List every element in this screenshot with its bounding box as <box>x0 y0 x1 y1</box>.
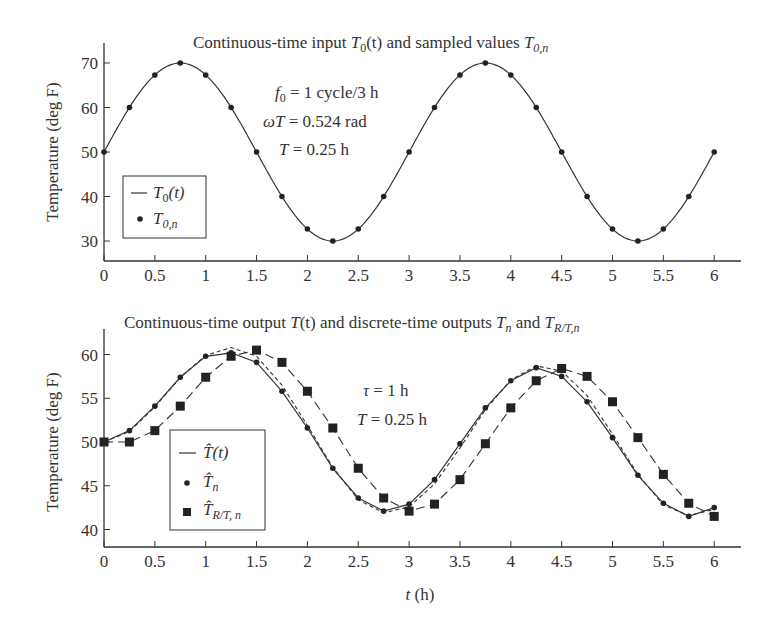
tn-dot <box>533 365 539 371</box>
tn-dot <box>127 428 133 434</box>
tn-dot <box>686 514 692 520</box>
sample-dot <box>483 60 489 66</box>
x-tick-label: 2.5 <box>348 552 369 571</box>
svg-text:T = 0.25 h: T = 0.25 h <box>357 410 428 429</box>
x-tick-label: 2 <box>303 552 312 571</box>
trt-square <box>277 358 286 367</box>
trt-square <box>405 507 414 516</box>
sample-dot <box>101 149 107 155</box>
x-tick-label: 1 <box>201 552 210 571</box>
bottom-y-axis-label: Temperature (deg F) <box>43 372 62 511</box>
y-tick-label: 40 <box>81 521 98 540</box>
x-tick-label: 5 <box>608 266 617 285</box>
sample-dot <box>127 105 133 111</box>
sample-dot <box>711 149 717 155</box>
x-tick-label: 1 <box>201 266 210 285</box>
trt-square <box>303 387 312 396</box>
sample-dot <box>559 149 565 155</box>
trt-square <box>252 346 261 355</box>
x-tick-label: 0 <box>100 266 109 285</box>
y-tick-label: 60 <box>81 346 98 365</box>
sample-dot <box>432 105 438 111</box>
y-tick-label: 60 <box>81 99 98 118</box>
sample-dot <box>305 226 311 232</box>
sample-dot <box>254 149 260 155</box>
y-tick-label: 50 <box>81 143 98 162</box>
svg-text:T = 0.25 h: T = 0.25 h <box>279 140 350 159</box>
tn-dot <box>406 501 412 507</box>
trt-square <box>532 376 541 385</box>
sample-dot <box>228 105 234 111</box>
tn-dot <box>483 405 489 411</box>
tn-dot <box>457 441 463 447</box>
x-tick-label: 3 <box>405 552 414 571</box>
trt-square <box>506 403 515 412</box>
svg-text:ωT = 0.524 rad: ωT = 0.524 rad <box>263 112 367 131</box>
sample-dot <box>152 72 158 78</box>
tn-dot <box>584 399 590 405</box>
tn-dot <box>661 500 667 506</box>
x-tick-label: 0.5 <box>144 552 165 571</box>
legend-square-icon <box>183 508 191 516</box>
sample-dot <box>381 194 387 200</box>
tn-dot <box>305 425 311 431</box>
legend-dot-icon <box>137 216 143 222</box>
trt-square <box>455 475 464 484</box>
svg-text:T̂(t): T̂(t) <box>203 443 229 462</box>
y-tick-label: 70 <box>81 54 98 73</box>
top-plot-title: Continuous-time input T0(t) and sampled … <box>193 33 548 55</box>
x-tick-label: 4.5 <box>551 266 572 285</box>
trt-square <box>379 494 388 503</box>
sample-dot <box>584 194 590 200</box>
bottom-x-axis-label: t (h) <box>406 585 435 604</box>
trt-square <box>201 373 210 382</box>
tn-dot <box>254 360 260 366</box>
sample-dot <box>330 238 336 244</box>
trt-square <box>557 364 566 373</box>
sample-dot <box>203 72 209 78</box>
bottom-annotation: τ = 1 h T = 0.25 h <box>357 381 428 429</box>
top-axes: 00.511.522.533.544.555.563040506070 <box>81 43 741 285</box>
x-tick-label: 3.5 <box>449 552 470 571</box>
trt-square <box>100 438 109 447</box>
x-tick-label: 6 <box>710 552 719 571</box>
tn-dot <box>203 353 209 359</box>
trt-square <box>354 464 363 473</box>
y-tick-label: 50 <box>81 433 98 452</box>
y-tick-label: 30 <box>81 232 98 251</box>
top-y-axis-label: Temperature (deg F) <box>43 82 62 221</box>
trt-square <box>710 512 719 521</box>
bottom-plot: Continuous-time output T(t) and discrete… <box>43 313 741 604</box>
tn-dot <box>177 374 183 380</box>
y-tick-label: 55 <box>81 389 98 408</box>
svg-text:f0 = 1 cycle/3 h: f0 = 1 cycle/3 h <box>275 83 379 105</box>
sample-dot <box>533 105 539 111</box>
tn-dot <box>279 388 285 394</box>
trt-square <box>659 470 668 479</box>
trt-square <box>227 352 236 361</box>
sample-dot <box>355 226 361 232</box>
trt-square <box>608 397 617 406</box>
tn-dot <box>635 472 641 478</box>
sample-dot <box>177 60 183 66</box>
sample-dot <box>406 149 412 155</box>
x-tick-label: 5 <box>608 552 617 571</box>
top-plot: Continuous-time input T0(t) and sampled … <box>43 33 741 285</box>
sample-dot <box>279 194 285 200</box>
sample-dot <box>508 72 514 78</box>
legend-dot-icon <box>184 480 190 486</box>
x-tick-label: 0.5 <box>144 266 165 285</box>
tn-dot <box>508 378 514 384</box>
bottom-legend: T̂(t) T̂n T̂R/T, n <box>170 430 265 530</box>
x-tick-label: 4 <box>507 266 516 285</box>
tn-dot <box>610 435 616 441</box>
y-tick-label: 45 <box>81 477 98 496</box>
x-tick-label: 1.5 <box>246 266 267 285</box>
trt-square <box>328 424 337 433</box>
trt-square <box>481 439 490 448</box>
tn-dot <box>152 403 158 409</box>
svg-text:T0(t): T0(t) <box>153 183 185 205</box>
sample-dot <box>457 72 463 78</box>
tn-dot <box>355 495 361 501</box>
x-tick-label: 6 <box>710 266 719 285</box>
